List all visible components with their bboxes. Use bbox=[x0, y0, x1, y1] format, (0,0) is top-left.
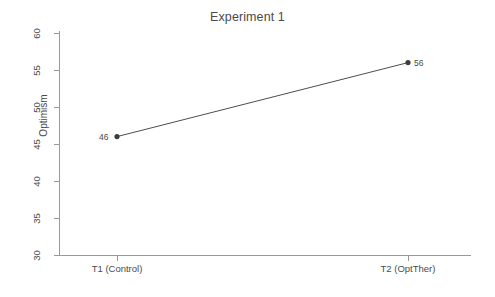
data-point-marker-t2 bbox=[405, 60, 410, 65]
data-point-label-t2: 56 bbox=[414, 58, 423, 68]
series-line-optimism bbox=[117, 63, 408, 137]
data-point-marker-t1 bbox=[114, 134, 119, 139]
chart-figure: Experiment 1 Optimism 60 55 50 45 40 35 … bbox=[0, 0, 495, 297]
data-point-label-t1: 46 bbox=[99, 132, 108, 142]
plot-area bbox=[0, 0, 495, 297]
